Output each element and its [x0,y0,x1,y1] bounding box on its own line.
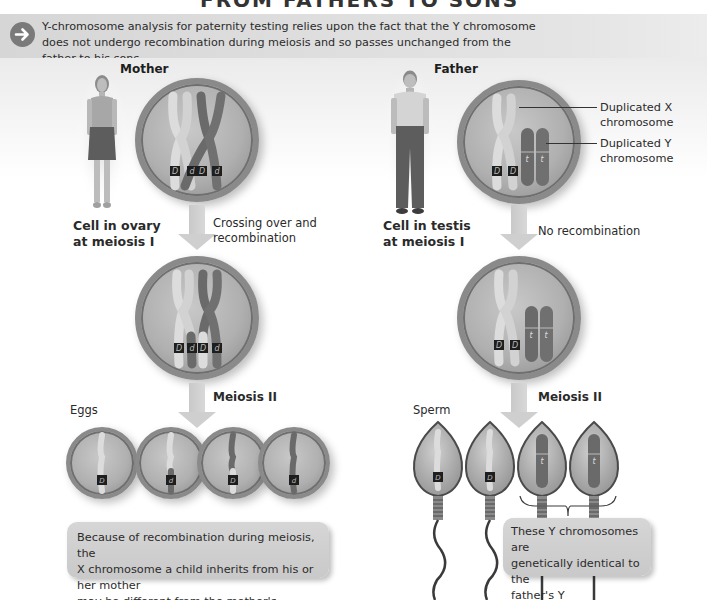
svg-text:d: d [169,477,174,485]
egg-chromosomes-icon: D d D d [66,427,336,499]
father-arrow-1 [500,205,538,250]
father-meiosis2-label: Meiosis II [538,389,602,405]
no-recombination-label: No recombination [538,224,640,239]
svg-text:D: D [512,341,518,350]
mother-crossing-chromosomes-icon: D d D d [135,78,259,202]
mother-cell-label: Cell in ovary at meiosis I [73,218,161,250]
intro-banner: Y-chromosome analysis for paternity test… [0,14,707,58]
svg-text:D: D [230,477,236,485]
father-figure-icon [384,68,436,220]
svg-text:D: D [494,167,500,176]
father-callout: These Y chromosomes are genetically iden… [503,518,651,576]
mother-recombined-chromosomes-icon: D d D d [135,256,259,380]
svg-text:D: D [496,341,502,350]
svg-text:D: D [200,344,206,353]
father-second-chromosomes-icon: D D t t [457,256,581,380]
title-strip: FROM FATHERS TO SONS [0,0,707,14]
svg-text:D: D [199,167,205,176]
svg-text:D: D [510,167,516,176]
crossing-over-label: Crossing over and recombination [213,216,317,246]
arrow-right-circle-icon [10,22,35,47]
svg-text:D: D [99,477,105,485]
sperm-1: D [414,422,462,600]
mother-figure-icon [76,72,128,217]
leader-line-y [546,143,597,144]
eggs-label: Eggs [70,403,98,418]
allele-label: D [172,167,178,176]
father-xy-chromosomes-icon: D D t t [457,80,581,204]
svg-text:d: d [292,477,297,485]
duplicated-y-label: Duplicated Y chromosome [600,136,673,166]
figure-title: FROM FATHERS TO SONS [200,0,519,12]
svg-text:D: D [435,474,441,482]
sperm-label: Sperm [413,403,450,418]
mother-meiosis2-label: Meiosis II [213,389,277,405]
mother-arrow-2 [178,383,216,428]
bracket-icon [520,496,616,516]
father-heading: Father [434,62,478,76]
mother-callout: Because of recombination during meiosis,… [67,522,329,578]
svg-text:D: D [176,344,182,353]
leader-line-x [519,107,597,108]
mother-arrow-1 [178,205,216,250]
duplicated-x-label: Duplicated X chromosome [600,100,673,130]
father-cell-label: Cell in testis at meiosis I [383,218,471,250]
svg-text:D: D [487,474,493,482]
